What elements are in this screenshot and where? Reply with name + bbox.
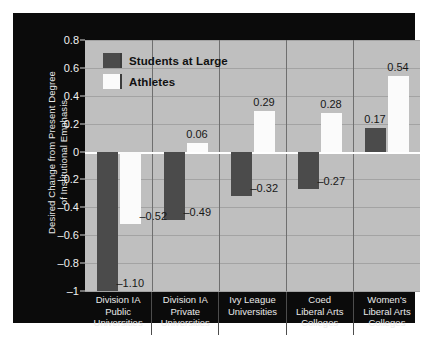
y-tick-label: –0.2	[58, 173, 79, 185]
bar-value-label: 0.29	[253, 96, 274, 108]
bar-value-label: 0.54	[387, 61, 408, 73]
gridline	[85, 263, 420, 264]
bar-athletes	[187, 143, 208, 151]
bar-students-at-large	[231, 152, 252, 197]
bar-value-label: –0.32	[251, 182, 279, 194]
x-axis-category-4: CoedLiberal ArtsColleges	[286, 292, 353, 335]
bar-value-label: 0.06	[186, 128, 207, 140]
bar-athletes	[321, 113, 342, 152]
chart-figure: Desired Change from Present Degree of In…	[0, 0, 428, 337]
y-axis-title: Desired Change from Present Degree of In…	[46, 48, 69, 258]
bar-value-label: –0.27	[318, 175, 346, 187]
category-label-line: Liberal Arts	[363, 306, 411, 318]
category-label-line: Universities	[94, 317, 143, 329]
category-label-line: Colleges	[368, 317, 405, 329]
bar-students-at-large	[298, 152, 319, 190]
y-tick-mark	[80, 123, 85, 124]
bar-value-label: –0.52	[140, 210, 168, 222]
y-tick-label: 0.4	[64, 90, 79, 102]
x-axis-category-1: Division IAPublicUniversities	[85, 292, 151, 335]
bar-athletes	[388, 76, 409, 151]
category-label-line: Private	[171, 306, 201, 318]
category-label-line: Public	[105, 306, 131, 318]
plot-area: Students at Large Athletes 0.80.60.40.20…	[85, 40, 420, 291]
category-divider	[353, 40, 354, 291]
category-divider	[286, 40, 287, 291]
legend-label-students-at-large: Students at Large	[129, 55, 228, 67]
y-axis-title-line-2: of Institutional Emphasis	[57, 100, 68, 205]
category-label-line: Women's	[367, 294, 406, 306]
bar-athletes	[120, 152, 141, 225]
y-tick-label: –0.4	[58, 201, 79, 213]
gridline	[85, 40, 420, 41]
legend-swatch-dark	[103, 53, 122, 68]
category-label-line: Coed	[308, 294, 331, 306]
chart-panel: Desired Change from Present Degree of In…	[13, 13, 415, 323]
category-label-line: Universities	[161, 317, 210, 329]
x-axis-category-2: Division IAPrivateUniversities	[151, 292, 218, 335]
category-label-line: Division IA	[163, 294, 208, 306]
legend-item-students-at-large: Students at Large	[103, 52, 228, 69]
y-tick-mark	[80, 179, 85, 180]
bar-athletes	[254, 111, 275, 151]
bar-value-label: –0.49	[184, 206, 212, 218]
x-axis-category-5: Women'sLiberal ArtsColleges	[353, 292, 420, 335]
bar-students-at-large	[365, 128, 386, 152]
y-tick-mark	[80, 67, 85, 68]
category-label-line: Liberal Arts	[296, 306, 344, 318]
y-tick-label: 0.6	[64, 62, 79, 74]
category-label-line: Colleges	[301, 317, 338, 329]
y-tick-mark	[80, 40, 85, 41]
category-label-line: Universities	[228, 306, 277, 318]
y-tick-label: 0	[73, 146, 79, 158]
bar-students-at-large	[97, 152, 118, 291]
y-tick-label: –0.6	[58, 229, 79, 241]
x-axis-category-3: Ivy LeagueUniversities	[218, 292, 285, 335]
y-tick-label: 0.8	[64, 34, 79, 46]
legend-swatch-light	[103, 74, 122, 89]
y-tick-mark	[80, 207, 85, 208]
gridline	[85, 235, 420, 236]
category-label-line: Division IA	[96, 294, 141, 306]
y-tick-mark	[80, 263, 85, 264]
y-tick-label: –0.8	[58, 257, 79, 269]
y-tick-label: –1	[67, 285, 79, 297]
x-axis-category-labels: Division IAPublicUniversitiesDivision IA…	[85, 292, 420, 335]
legend-label-athletes: Athletes	[129, 76, 175, 88]
bar-value-label: 0.28	[320, 98, 341, 110]
legend-item-athletes: Athletes	[103, 73, 228, 90]
bar-value-label: 0.17	[364, 113, 385, 125]
category-label-line: Ivy League	[229, 294, 275, 306]
y-tick-label: 0.2	[64, 118, 79, 130]
chart-legend: Students at Large Athletes	[103, 52, 228, 94]
y-tick-mark	[80, 95, 85, 96]
y-axis-title-line-1: Desired Change from Present Degree	[46, 71, 57, 234]
bar-value-label: –1.10	[117, 277, 145, 289]
y-tick-mark	[80, 235, 85, 236]
